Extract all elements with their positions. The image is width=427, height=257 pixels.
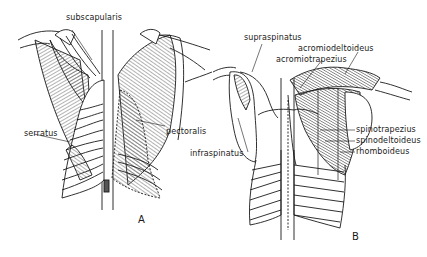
label-acromiotrapezius: acromiotrapezius: [276, 56, 347, 64]
label-spinotrapezius: spinotrapezius: [356, 126, 416, 134]
label-acromiodeltoideus: acromiodeltoideus: [298, 45, 374, 53]
label-spinodeltoideus: spinodeltoideus: [356, 137, 421, 145]
label-serratus: serratus: [24, 130, 58, 138]
label-rhomboideus: rhomboideus: [356, 148, 409, 156]
label-pectoralis: pectoralis: [166, 128, 206, 136]
panel-label-b: B: [352, 232, 359, 242]
panel-a-drawing: [18, 29, 212, 210]
label-subscapularis: subscapularis: [66, 14, 122, 22]
label-infraspinatus: infraspinatus: [190, 150, 243, 158]
panel-label-a: A: [138, 215, 145, 225]
label-supraspinatus: supraspinatus: [244, 34, 302, 42]
